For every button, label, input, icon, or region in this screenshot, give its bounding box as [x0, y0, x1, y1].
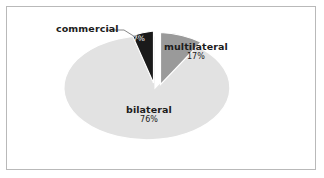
pie-chart-canvas	[0, 0, 324, 178]
pie-chart-figure: commercial 7% multilateral 17% bilateral…	[0, 0, 324, 178]
